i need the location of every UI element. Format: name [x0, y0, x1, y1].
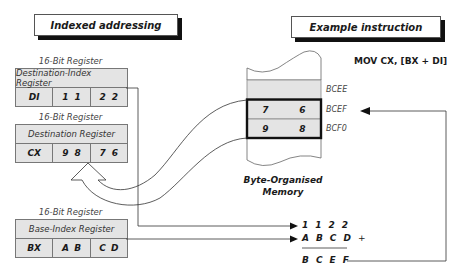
memory-address: BCEE: [326, 85, 347, 94]
calc-result: BCEF: [302, 255, 349, 265]
memory-address: BCEF: [326, 105, 347, 114]
calc-operand1: 1122: [302, 220, 348, 230]
memory-caption: Byte-Organised Memory: [233, 174, 333, 198]
diagram-lines: [0, 0, 457, 275]
plus-operator: +: [358, 233, 366, 243]
calc-operand2: ABCD +: [302, 233, 365, 243]
memory-cell-bcef: 76: [247, 100, 321, 119]
memory-address: BCF0: [326, 124, 347, 133]
memory-cell-bcf0: 98: [247, 119, 321, 138]
